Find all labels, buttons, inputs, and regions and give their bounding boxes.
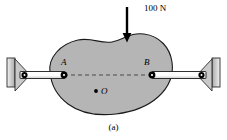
pin-joint-b: [149, 72, 156, 79]
figure-caption: (a): [0, 123, 227, 132]
pin-b-hole: [151, 74, 153, 76]
right-link-member: [152, 72, 206, 79]
label-point-o: O: [101, 87, 108, 96]
right-link-bar: [152, 72, 206, 79]
left-wall-plate: [7, 58, 15, 87]
label-point-b: B: [144, 58, 150, 67]
mechanics-figure: 100 N A B O (a): [0, 0, 227, 140]
right-link-outer-pin-hole: [201, 74, 203, 76]
load-label: 100 N: [144, 4, 166, 13]
pin-a-hole: [63, 74, 65, 76]
point-o-dot: [94, 89, 98, 93]
label-point-a: A: [61, 58, 67, 67]
figure-canvas: [0, 0, 227, 140]
right-wall-plate: [212, 58, 220, 87]
pin-joint-a: [61, 72, 68, 79]
left-link-member: [20, 72, 65, 79]
left-link-outer-pin-hole: [24, 74, 26, 76]
